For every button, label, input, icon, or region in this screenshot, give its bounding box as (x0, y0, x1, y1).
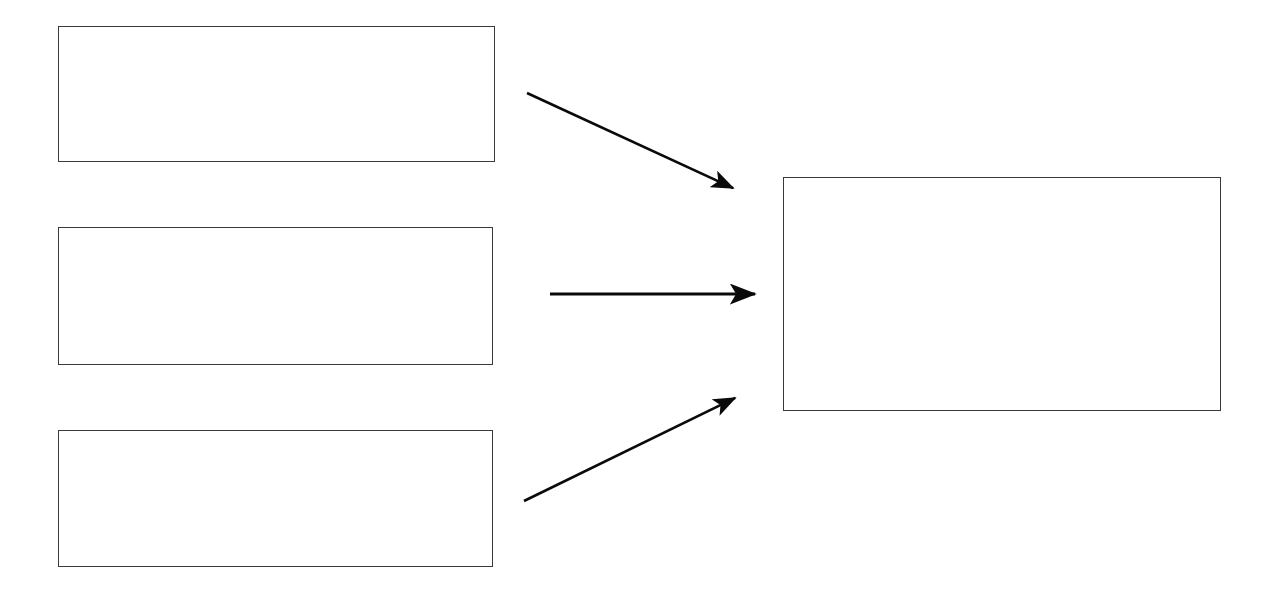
connector-arrow-3 (524, 398, 735, 501)
source-box-1[interactable] (58, 26, 495, 162)
source-box-2-label (59, 228, 492, 364)
diagram-canvas (0, 0, 1276, 589)
source-box-2[interactable] (58, 227, 493, 365)
source-box-3[interactable] (58, 430, 493, 567)
source-box-3-label (59, 431, 492, 566)
target-box-label (784, 178, 1220, 410)
connector-arrow-1 (527, 93, 733, 188)
target-box[interactable] (783, 177, 1221, 411)
source-box-1-label (59, 27, 494, 161)
